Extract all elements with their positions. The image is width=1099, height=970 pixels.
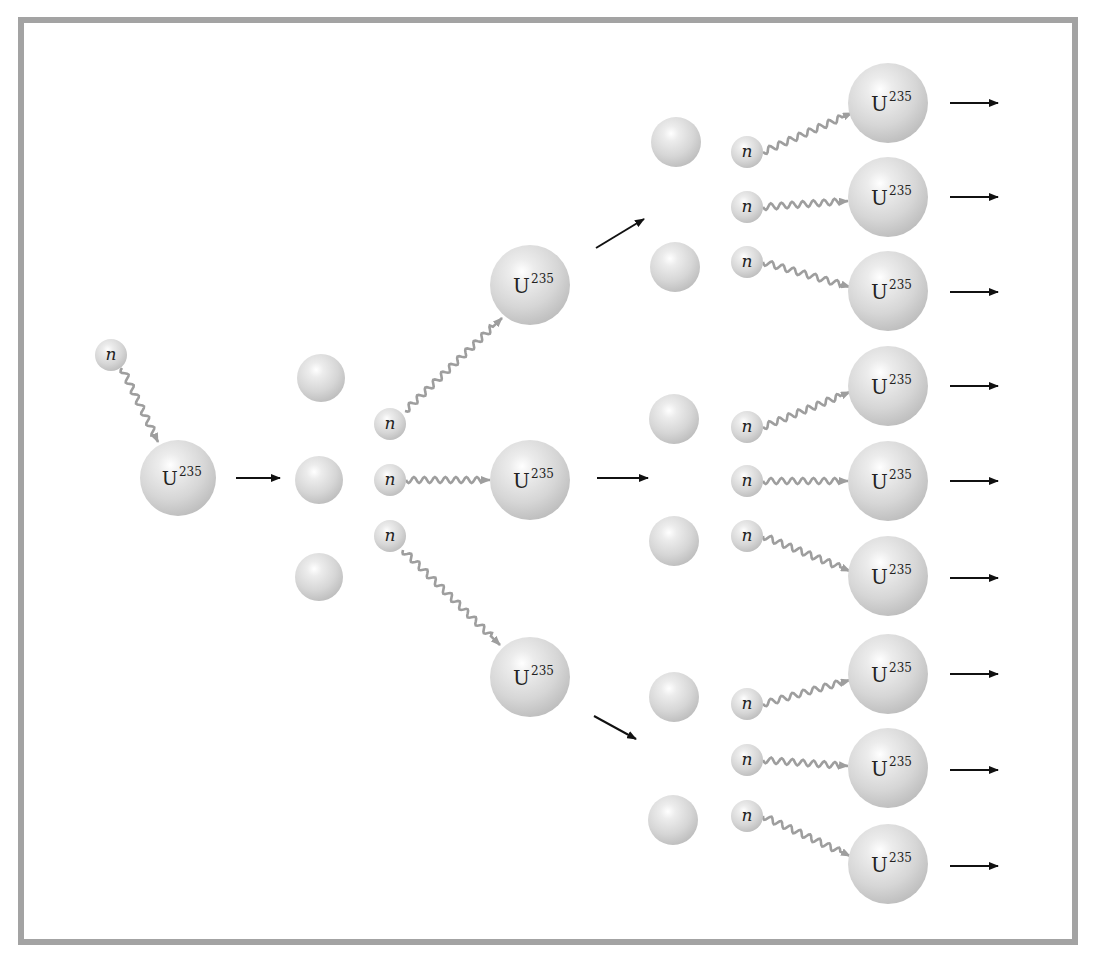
wavy-neutron-path xyxy=(763,758,848,768)
neutron: n xyxy=(731,246,763,278)
fission-fragment xyxy=(295,553,343,601)
wavy-neutron-path xyxy=(406,477,490,483)
uranium-235-nucleus: U235 xyxy=(490,637,570,717)
neutron-label: n xyxy=(385,469,396,489)
uranium-235-nucleus: U235 xyxy=(848,63,928,143)
neutron: n xyxy=(374,520,406,552)
neutron: n xyxy=(731,688,763,720)
neutron: n xyxy=(731,411,763,443)
neutron: n xyxy=(731,520,763,552)
mass-number-label: 235 xyxy=(531,272,554,286)
neutron-label: n xyxy=(742,141,753,161)
uranium-235-nucleus: U235 xyxy=(848,346,928,426)
wavy-neutron-path xyxy=(763,478,848,484)
mass-number-label: 235 xyxy=(889,373,912,387)
chain-reaction-diagram: U235U235U235U235U235U235U235U235U235U235… xyxy=(0,0,1099,970)
neutron: n xyxy=(374,464,406,496)
fission-fragment xyxy=(295,456,343,504)
uranium-label: U xyxy=(162,467,178,489)
uranium-235-nucleus: U235 xyxy=(848,634,928,714)
neutron-label: n xyxy=(742,805,753,825)
uranium-235-nucleus: U235 xyxy=(848,441,928,521)
neutron-label: n xyxy=(742,525,753,545)
arrow-icon xyxy=(596,219,644,248)
mass-number-label: 235 xyxy=(889,184,912,198)
uranium-235-nucleus: U235 xyxy=(848,536,928,616)
fission-fragment xyxy=(651,117,701,167)
mass-number-label: 235 xyxy=(889,661,912,675)
uranium-label: U xyxy=(871,375,888,399)
fission-fragment xyxy=(650,242,700,292)
uranium-235-nucleus: U235 xyxy=(848,728,928,808)
uranium-label: U xyxy=(871,186,888,210)
uranium-235-nucleus: U235 xyxy=(848,824,928,904)
uranium-235-nucleus: U235 xyxy=(848,157,928,237)
mass-number-label: 235 xyxy=(889,851,912,865)
neutron: n xyxy=(731,136,763,168)
neutron-label: n xyxy=(742,749,753,769)
wavy-neutron-path xyxy=(763,392,850,429)
fission-fragment xyxy=(648,795,698,845)
uranium-label: U xyxy=(513,274,530,298)
mass-number-label: 235 xyxy=(531,467,554,481)
uranium-235-nucleus: U235 xyxy=(848,251,928,331)
mass-number-label: 235 xyxy=(889,90,912,104)
neutron: n xyxy=(731,465,763,497)
arrow-icon xyxy=(594,716,636,739)
uranium-label: U xyxy=(513,666,530,690)
wavy-neutron-path xyxy=(763,680,850,706)
uranium-label: U xyxy=(513,469,530,493)
mass-number-label: 235 xyxy=(889,468,912,482)
wavy-neutron-path xyxy=(763,262,850,288)
uranium-label: U xyxy=(871,663,888,687)
neutron-label: n xyxy=(742,196,753,216)
neutron: n xyxy=(731,800,763,832)
wavy-neutron-path xyxy=(405,318,502,412)
wavy-neutron-path xyxy=(763,816,850,856)
fission-fragment xyxy=(649,672,699,722)
mass-number-label: 235 xyxy=(889,278,912,292)
uranium-label: U xyxy=(871,853,888,877)
uranium-label: U xyxy=(871,92,888,116)
wavy-neutron-path xyxy=(763,536,850,571)
neutron-label: n xyxy=(742,416,753,436)
neutron: n xyxy=(731,744,763,776)
mass-number-label: 235 xyxy=(179,465,202,479)
mass-number-label: 235 xyxy=(531,664,554,678)
wavy-neutron-path xyxy=(403,550,501,645)
uranium-label: U xyxy=(871,470,888,494)
mass-number-label: 235 xyxy=(889,755,912,769)
neutron-label: n xyxy=(742,693,753,713)
uranium-235-nucleus: U235 xyxy=(140,440,216,516)
wavy-neutron-path xyxy=(763,113,852,154)
uranium-label: U xyxy=(871,280,888,304)
wavy-neutron-path xyxy=(121,368,158,442)
mass-number-label: 235 xyxy=(889,563,912,577)
fission-fragment xyxy=(297,354,345,402)
wavy-neutron-path xyxy=(763,199,848,210)
uranium-235-nucleus: U235 xyxy=(490,440,570,520)
fission-fragment xyxy=(649,394,699,444)
neutron-label: n xyxy=(742,251,753,271)
uranium-235-nucleus: U235 xyxy=(490,245,570,325)
neutron-label: n xyxy=(385,525,396,545)
fission-fragment xyxy=(649,516,699,566)
neutron-label: n xyxy=(385,413,396,433)
neutron: n xyxy=(95,339,127,371)
neutron-label: n xyxy=(106,344,117,364)
neutron: n xyxy=(731,191,763,223)
neutron: n xyxy=(374,408,406,440)
uranium-label: U xyxy=(871,757,888,781)
neutron-label: n xyxy=(742,470,753,490)
uranium-label: U xyxy=(871,565,888,589)
